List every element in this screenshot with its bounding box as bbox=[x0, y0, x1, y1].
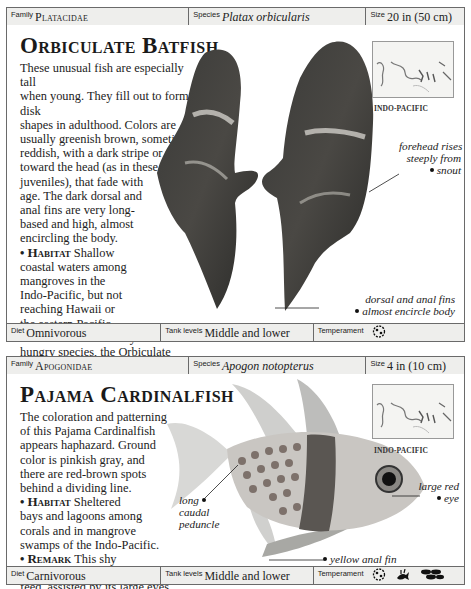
temperament-label: Temperament bbox=[318, 569, 364, 578]
tank-levels-label: Tank levels bbox=[165, 326, 202, 335]
species-label: Species bbox=[193, 10, 220, 19]
family-label: Family bbox=[11, 10, 33, 19]
map-region-label: INDO-PACIFIC bbox=[374, 104, 428, 113]
diet-label: Diet bbox=[11, 326, 24, 335]
entry-footer-bar: Diet Carnivorous Tank levels Middle and … bbox=[6, 566, 465, 585]
school-of-fish-icon bbox=[420, 569, 444, 580]
entry-footer-bar: Diet Omnivorous Tank levels Middle and l… bbox=[6, 323, 465, 342]
annotation-anal-fin: yellow anal fin bbox=[323, 553, 397, 565]
temperament-cell: Temperament bbox=[314, 567, 464, 584]
size-value: 4 in (10 cm) bbox=[387, 360, 446, 372]
tank-levels-cell: Tank levels Middle and lower bbox=[161, 567, 313, 584]
temperament-label: Temperament bbox=[318, 326, 364, 335]
species-label: Species bbox=[193, 359, 220, 368]
entry-pajama-cardinalfish: Family Apogonidae Species Apogon notopte… bbox=[6, 356, 465, 585]
habitat-heading: Habitat bbox=[27, 494, 70, 509]
diet-value: Carnivorous bbox=[26, 570, 85, 582]
tank-levels-label: Tank levels bbox=[165, 569, 202, 578]
leader-line bbox=[275, 306, 319, 310]
annotation-forehead: forehead rises steeply from snout bbox=[399, 140, 461, 176]
entry-header-bar: Family Apogonidae Species Apogon notopte… bbox=[6, 356, 465, 375]
species-cell: Species Apogon notopterus bbox=[189, 357, 366, 374]
temperament-cell: Temperament bbox=[314, 324, 464, 341]
family-cell: Family Platacidae bbox=[7, 8, 189, 25]
family-value: Apogonidae bbox=[35, 360, 92, 372]
entry-orbiculate-batfish: Family Platacidae Species Platax orbicul… bbox=[6, 7, 465, 342]
pointer-dot-icon bbox=[437, 496, 441, 500]
pointer-dot-icon bbox=[430, 168, 434, 172]
diet-cell: Diet Omnivorous bbox=[7, 324, 161, 341]
tank-levels-cell: Tank levels Middle and lower bbox=[161, 324, 313, 341]
range-map bbox=[372, 384, 454, 439]
diet-label: Diet bbox=[11, 569, 24, 578]
habitat-heading: Habitat bbox=[27, 245, 70, 260]
batfish-illustration bbox=[155, 33, 377, 315]
annotation-fins: dorsal and anal fins almost encircle bod… bbox=[313, 293, 455, 317]
species-cell: Species Platax orbicularis bbox=[189, 8, 366, 25]
diet-cell: Diet Carnivorous bbox=[7, 567, 161, 584]
species-value: Apogon notopterus bbox=[222, 360, 314, 372]
size-label: Size bbox=[370, 10, 385, 19]
family-cell: Family Apogonidae bbox=[7, 357, 189, 374]
leader-line bbox=[367, 173, 401, 193]
diet-value: Omnivorous bbox=[26, 327, 86, 339]
world-map-icon bbox=[373, 42, 454, 98]
tank-levels-value: Middle and lower bbox=[204, 570, 289, 582]
peaceful-fish-icon bbox=[372, 325, 386, 338]
entry-body: Pajama Cardinalfish The coloration and p… bbox=[6, 374, 465, 567]
map-region-label: INDO-PACIFIC bbox=[374, 446, 428, 455]
species-value: Platax orbicularis bbox=[222, 11, 310, 23]
annotation-eye: large red eye bbox=[411, 480, 459, 504]
size-cell: Size 20 in (50 cm) bbox=[366, 8, 464, 25]
leader-line bbox=[203, 464, 239, 500]
plant-icon bbox=[395, 569, 411, 581]
family-value: Platacidae bbox=[35, 11, 88, 23]
peaceful-fish-icon bbox=[372, 568, 386, 581]
entry-body: Orbiculate Batfish These unusual fish ar… bbox=[6, 25, 465, 324]
size-value: 20 in (50 cm) bbox=[387, 11, 452, 23]
remark-heading: Remark bbox=[27, 551, 71, 566]
family-label: Family bbox=[11, 359, 33, 368]
leader-line bbox=[269, 558, 325, 562]
world-map-icon bbox=[373, 385, 454, 439]
size-label: Size bbox=[370, 359, 385, 368]
leader-line bbox=[392, 494, 420, 498]
tank-levels-value: Middle and lower bbox=[204, 327, 289, 339]
size-cell: Size 4 in (10 cm) bbox=[366, 357, 464, 374]
pointer-dot-icon bbox=[355, 309, 359, 313]
entry-header-bar: Family Platacidae Species Platax orbicul… bbox=[6, 7, 465, 26]
range-map bbox=[372, 41, 454, 98]
